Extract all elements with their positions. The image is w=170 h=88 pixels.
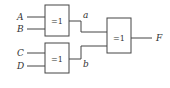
intermediate-label-a: a <box>83 10 88 20</box>
gate-2-label: =1 <box>51 55 63 64</box>
gate-1-label: =1 <box>51 17 63 26</box>
xor-gate-1: =1 <box>45 5 69 36</box>
xor-gate-3: =1 <box>107 18 131 53</box>
input-label-d: D <box>16 61 24 71</box>
output-label-f: F <box>155 33 163 43</box>
logic-circuit-diagram: A B C D =1 =1 a b =1 F <box>0 0 170 88</box>
xor-gate-2: =1 <box>45 43 69 73</box>
input-label-a: A <box>16 12 24 22</box>
intermediate-label-b: b <box>83 59 89 69</box>
wire-a-intermediate <box>69 21 107 32</box>
wire-b-intermediate <box>69 46 107 59</box>
input-label-b: B <box>16 24 24 34</box>
input-label-c: C <box>17 48 24 58</box>
gate-3-label: =1 <box>113 34 125 43</box>
